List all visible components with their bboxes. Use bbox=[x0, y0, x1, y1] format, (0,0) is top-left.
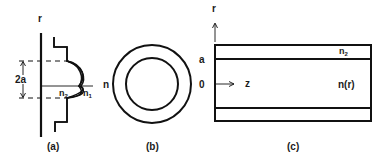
cladding-index-label-c: n2 bbox=[339, 46, 349, 57]
diameter-label: 2a bbox=[15, 74, 27, 85]
index-label-n: n bbox=[103, 79, 109, 90]
z-axis-label: z bbox=[245, 78, 250, 89]
index-profile bbox=[54, 37, 82, 132]
index-profile-curve bbox=[54, 37, 83, 132]
r-axis-label: r bbox=[38, 13, 42, 24]
core-circle bbox=[126, 58, 178, 110]
caption-c: (c) bbox=[287, 141, 299, 152]
origin-label: 0 bbox=[199, 79, 205, 90]
panel-a: r 2a n2 n1 (a) bbox=[15, 13, 93, 152]
cladding-index-label: n1 bbox=[83, 88, 93, 99]
caption-a: (a) bbox=[47, 141, 59, 152]
r-axis-label-c: r bbox=[212, 3, 216, 14]
panel-b: n (b) bbox=[103, 45, 191, 152]
caption-b: (b) bbox=[146, 141, 159, 152]
core-index-label-c: n(r) bbox=[338, 79, 355, 90]
fiber-diagram: r 2a n2 n1 (a) n (b) r a 0 bbox=[0, 0, 387, 164]
core-index-label: n2 bbox=[59, 88, 69, 99]
panel-c: r a 0 z n2 n(r) (c) bbox=[199, 3, 371, 152]
radius-label: a bbox=[199, 54, 205, 65]
cladding-circle bbox=[113, 45, 191, 123]
